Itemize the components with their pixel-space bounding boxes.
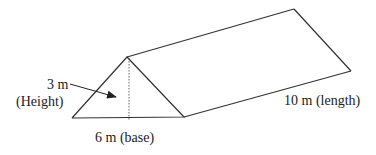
height-value-label: 3 m xyxy=(47,77,68,93)
prism-diagram: 3 m (Height) 6 m (base) 10 m (length) xyxy=(0,0,376,155)
back-slant-edge xyxy=(294,9,351,71)
front-triangle xyxy=(72,57,184,118)
length-label: 10 m (length) xyxy=(284,93,360,109)
base-label: 6 m (base) xyxy=(95,130,154,146)
ridge-edge xyxy=(127,9,294,57)
height-caption-label: (Height) xyxy=(16,94,63,110)
